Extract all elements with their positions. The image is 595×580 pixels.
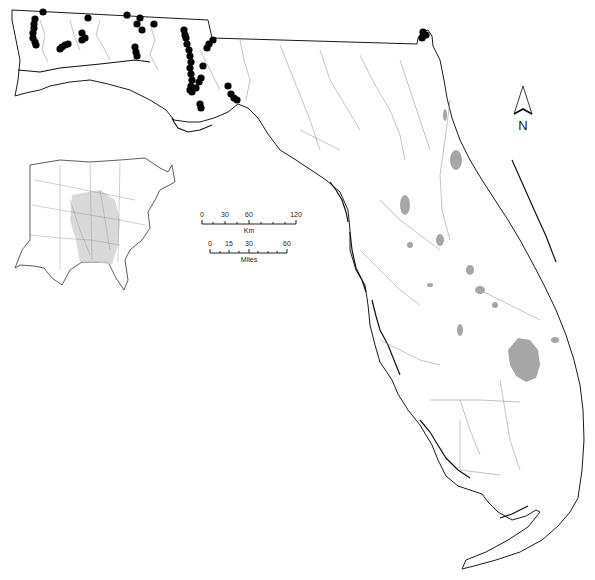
sample-point <box>185 46 192 53</box>
scale-km-unit: Km <box>244 227 255 234</box>
scale-mi-tick-60: 60 <box>283 240 291 247</box>
scale-mi-tick-15: 15 <box>225 240 233 247</box>
sample-point <box>56 45 63 52</box>
sample-point <box>418 34 425 41</box>
sample-point <box>133 52 140 59</box>
north-arrow: N <box>514 86 532 133</box>
scale-km-tick-60: 60 <box>245 211 253 218</box>
sample-point <box>187 70 194 77</box>
sample-point <box>84 14 91 21</box>
sample-point <box>203 44 210 51</box>
state-outline <box>12 10 584 569</box>
sample-point <box>133 20 140 27</box>
sample-point <box>188 76 195 83</box>
sample-point <box>186 52 193 59</box>
sample-point <box>78 36 85 43</box>
inset-eastern-us-map <box>15 158 175 290</box>
sample-point <box>224 82 231 89</box>
scale-bar-km: 0 30 60 120 Km <box>200 211 302 234</box>
florida-map: 0 30 60 120 Km 0 15 30 60 Miles N <box>0 0 595 580</box>
sample-point <box>186 64 193 71</box>
sample-point <box>64 40 71 47</box>
scale-mi-tick-30: 30 <box>245 240 253 247</box>
sample-point <box>195 78 202 85</box>
scale-km-tick-120: 120 <box>290 211 302 218</box>
scale-mi-tick-0: 0 <box>208 240 212 247</box>
scale-mi-unit: Miles <box>241 256 258 263</box>
scale-km-tick-0: 0 <box>200 211 204 218</box>
sample-point <box>32 41 39 48</box>
sample-point <box>138 26 145 33</box>
sample-point <box>199 62 206 69</box>
sample-point <box>123 11 130 18</box>
sample-point <box>197 104 204 111</box>
sample-point <box>182 34 189 41</box>
sample-point <box>39 8 46 15</box>
scale-bar-miles: 0 15 30 60 Miles <box>208 240 291 263</box>
sample-point <box>187 58 194 65</box>
north-label: N <box>518 118 527 133</box>
scale-km-tick-30: 30 <box>221 211 229 218</box>
sample-point <box>150 20 157 27</box>
sample-point <box>233 96 240 103</box>
